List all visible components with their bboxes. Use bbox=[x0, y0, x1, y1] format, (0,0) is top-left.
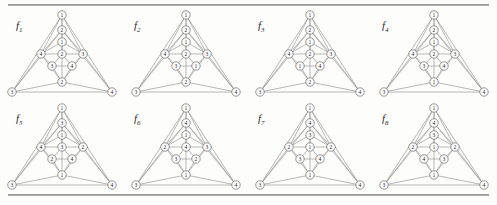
graph-edge bbox=[62, 175, 112, 185]
graph-label-f7: f7 bbox=[258, 112, 265, 127]
graph-node-label-left: 4 bbox=[164, 51, 167, 57]
graph-node-label-right: 3 bbox=[330, 51, 333, 57]
graph-label-f5: f5 bbox=[16, 112, 23, 127]
graph-node-label-chain_upper: 4 bbox=[185, 120, 188, 126]
graph-node-label-apex: 1 bbox=[61, 12, 64, 18]
graph-f4: f412124334134 bbox=[372, 7, 496, 100]
graph-node-label-lower_right: 4 bbox=[319, 63, 322, 69]
figure-plate: f112124334234f212124331234f312124314234f… bbox=[0, 0, 497, 205]
graph-node-label-lower_right: 4 bbox=[71, 63, 74, 69]
graph-node-label-corner_right: 4 bbox=[111, 182, 114, 188]
graph-node-label-apex: 1 bbox=[433, 12, 436, 18]
graph-node-label-lower_left: 3 bbox=[423, 63, 426, 69]
graph-node-label-corner_right: 4 bbox=[235, 182, 238, 188]
graph-node-label-bottom_mid: 2 bbox=[309, 79, 312, 85]
graph-node-label-chain_lower: 3 bbox=[433, 132, 436, 138]
graph-label-subscript: 7 bbox=[261, 119, 265, 127]
graph-canvas-f3: 12124314234 bbox=[248, 7, 372, 100]
graph-canvas-f7: 14312234134 bbox=[248, 100, 372, 193]
top-rule bbox=[8, 4, 489, 6]
graph-grid: f112124334234f212124331234f312124314234f… bbox=[0, 7, 497, 193]
graph-node-label-corner_left: 3 bbox=[11, 182, 14, 188]
graph-f7: f714312234134 bbox=[248, 100, 372, 193]
graph-canvas-f8: 14312243134 bbox=[372, 100, 496, 193]
graph-node-label-corner_left: 3 bbox=[383, 89, 386, 95]
graph-node-label-left: 4 bbox=[288, 51, 291, 57]
graph-node-label-chain_upper: 4 bbox=[309, 120, 312, 126]
graph-node-label-corner_left: 3 bbox=[259, 89, 262, 95]
graph-node-label-left: 2 bbox=[164, 144, 167, 150]
graph-edge bbox=[136, 30, 186, 92]
graph-label-subscript: 6 bbox=[137, 119, 141, 127]
graph-edge bbox=[186, 82, 236, 92]
graph-node-label-lower_left: 3 bbox=[51, 63, 54, 69]
graph-edge bbox=[12, 123, 62, 185]
graph-label-subscript: 2 bbox=[137, 26, 141, 34]
graph-node-label-chain_lower: 1 bbox=[61, 132, 64, 138]
graph-f2: f212124331234 bbox=[124, 7, 248, 100]
graph-node-label-lower_left: 3 bbox=[175, 156, 178, 162]
graph-node-label-chain_lower: 1 bbox=[433, 39, 436, 45]
graph-node-label-center: 3 bbox=[61, 144, 64, 150]
graph-node-label-bottom_mid: 1 bbox=[185, 172, 188, 178]
graph-node-label-right: 3 bbox=[206, 51, 209, 57]
graph-label-subscript: 4 bbox=[385, 26, 389, 34]
graph-node-label-corner_left: 3 bbox=[11, 89, 14, 95]
graph-node-label-bottom_mid: 2 bbox=[185, 79, 188, 85]
graph-edge bbox=[384, 123, 434, 185]
graph-node-label-apex: 1 bbox=[185, 12, 188, 18]
graph-edge bbox=[260, 82, 310, 92]
graph-node-label-lower_left: 3 bbox=[175, 63, 178, 69]
graph-node-label-right: 3 bbox=[454, 51, 457, 57]
graph-edge bbox=[434, 123, 484, 185]
graph-node-label-center: 2 bbox=[309, 51, 312, 57]
graph-edge bbox=[310, 175, 360, 185]
graph-f6: f614142332134 bbox=[124, 100, 248, 193]
graph-node-label-apex: 1 bbox=[433, 105, 436, 111]
graph-node-label-right: 2 bbox=[454, 144, 457, 150]
graph-f3: f312124314234 bbox=[248, 7, 372, 100]
graph-node-label-lower_right: 3 bbox=[443, 156, 446, 162]
graph-node-label-chain_upper: 2 bbox=[433, 27, 436, 33]
graph-label-f3: f3 bbox=[258, 19, 265, 34]
graph-node-label-corner_right: 4 bbox=[359, 182, 362, 188]
graph-node-label-right: 2 bbox=[330, 144, 333, 150]
graph-node-label-left: 2 bbox=[288, 144, 291, 150]
graph-node-label-chain_lower: 3 bbox=[309, 132, 312, 138]
graph-node-label-corner_left: 3 bbox=[259, 182, 262, 188]
graph-node-label-right: 3 bbox=[82, 51, 85, 57]
graph-edge bbox=[62, 123, 112, 185]
graph-edge bbox=[136, 123, 186, 185]
graph-node-label-chain_upper: 3 bbox=[61, 120, 64, 126]
graph-node-label-bottom_mid: 1 bbox=[433, 79, 436, 85]
graph-node-label-lower_left: 4 bbox=[423, 156, 426, 162]
graph-label-subscript: 3 bbox=[261, 26, 265, 34]
graph-f1: f112124334234 bbox=[0, 7, 124, 100]
graph-node-label-chain_lower: 1 bbox=[309, 39, 312, 45]
graph-node-label-lower_left: 2 bbox=[51, 156, 54, 162]
graph-label-subscript: 5 bbox=[19, 119, 23, 127]
graph-node-label-corner_left: 3 bbox=[135, 89, 138, 95]
graph-canvas-f2: 12124331234 bbox=[124, 7, 248, 100]
graph-canvas-f4: 12124334134 bbox=[372, 7, 496, 100]
graph-node-label-apex: 1 bbox=[309, 105, 312, 111]
graph-node-label-left: 4 bbox=[40, 51, 43, 57]
graph-label-subscript: 1 bbox=[19, 26, 23, 34]
graph-edge bbox=[384, 175, 434, 185]
graph-node-label-apex: 1 bbox=[61, 105, 64, 111]
graph-edge bbox=[186, 175, 236, 185]
graph-edge bbox=[260, 123, 310, 185]
graph-label-f2: f2 bbox=[134, 19, 141, 34]
graph-edge bbox=[260, 30, 310, 92]
graph-node-label-bottom_mid: 2 bbox=[61, 79, 64, 85]
graph-node-label-bottom_mid: 1 bbox=[433, 172, 436, 178]
graph-edge bbox=[434, 175, 484, 185]
graph-label-f1: f1 bbox=[16, 19, 23, 34]
graph-node-label-chain_upper: 2 bbox=[309, 27, 312, 33]
graph-f5: f513134224134 bbox=[0, 100, 124, 193]
graph-node-label-center: 1 bbox=[433, 144, 436, 150]
graph-label-f4: f4 bbox=[382, 19, 389, 34]
graph-edge bbox=[434, 82, 484, 92]
graph-node-label-corner_left: 3 bbox=[135, 182, 138, 188]
graph-edge bbox=[384, 82, 434, 92]
